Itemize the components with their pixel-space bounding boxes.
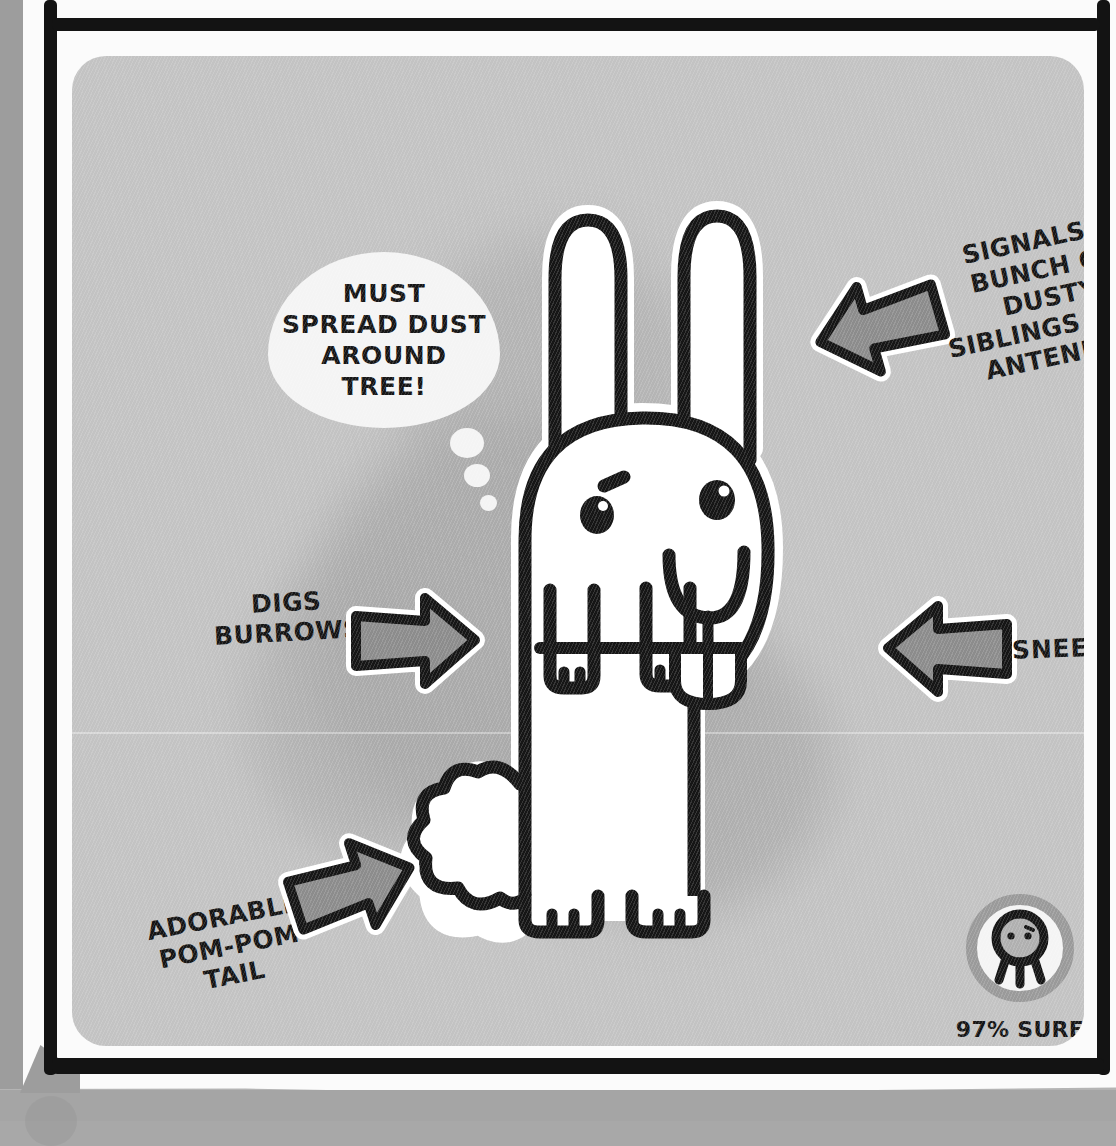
page-bottom-edge: [0, 1090, 1116, 1121]
thought-line-4: TREE!: [342, 372, 427, 401]
gary-creature-icon: [966, 894, 1074, 1002]
thought-line-1: MUST: [343, 279, 426, 308]
thought-line-3: AROUND: [321, 341, 446, 370]
page-bottom-blob: [25, 1096, 77, 1146]
rabbit-pompom-tail: [413, 767, 534, 904]
badge-caption-line-1: 97% SURE THEY'RE: [928, 1016, 1084, 1046]
thought-bubble-dot: [480, 495, 497, 511]
thought-bubble-dot: [464, 464, 490, 487]
panel-frame-top: [52, 18, 1100, 31]
rabbit-foot-right: [632, 896, 704, 932]
gary-badge: 97% SURE THEY'RE PALS WITH GARY: [944, 894, 1084, 1046]
arrow-right-icon: [348, 588, 483, 693]
thought-line-2: SPREAD DUST: [282, 310, 486, 339]
arrow-left-icon: [880, 596, 1015, 701]
thought-bubble-group: MUST SPREAD DUST AROUND TREE!: [268, 252, 508, 492]
rabbit-eye-right-highlight: [719, 486, 730, 497]
callout-digs: DIGS BURROWS: [211, 584, 364, 651]
rabbit-eye-right: [699, 480, 735, 520]
callout-signals: SIGNALS A BUNCH OF DUSTY SIBLINGS WITH A…: [917, 201, 1084, 395]
comic-panel: MUST SPREAD DUST AROUND TREE! SIGNALS A …: [72, 56, 1084, 1046]
rabbit-eye-left: [580, 496, 614, 534]
callout-sneezes-line-1: SNEEZES: [1012, 630, 1084, 665]
thought-bubble-text: MUST SPREAD DUST AROUND TREE!: [268, 252, 500, 428]
rabbit-eyebrow: [604, 477, 624, 486]
panel-frame-right: [1097, 0, 1110, 1075]
thought-bubble-dot: [450, 428, 484, 458]
panel-frame-bottom: [52, 1058, 1104, 1074]
badge-caption: 97% SURE THEY'RE PALS WITH GARY: [928, 1016, 1084, 1046]
rabbit-foot-left: [525, 896, 598, 932]
page-left-edge: [0, 0, 23, 1121]
callout-sneezes: SNEEZES: [1012, 630, 1084, 665]
panel-frame-left: [44, 0, 57, 1075]
rabbit-eye-left-highlight: [598, 501, 608, 511]
